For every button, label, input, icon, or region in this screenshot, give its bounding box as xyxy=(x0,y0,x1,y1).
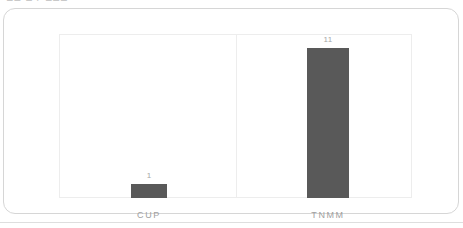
clipped-heading: 12 1 / 122 xyxy=(6,0,68,3)
category-label-cup: CUP xyxy=(89,210,209,220)
bottom-rule xyxy=(0,222,463,223)
category-label-tnmm: TNMM xyxy=(268,210,388,220)
panel-divider xyxy=(236,34,237,198)
bar-tnmm[interactable] xyxy=(307,48,349,198)
chart-card: 1 11 CUP TNMM xyxy=(3,8,459,214)
value-label-tnmm: 11 xyxy=(307,35,349,44)
value-label-cup: 1 xyxy=(131,171,167,180)
bar-cup[interactable] xyxy=(131,184,167,198)
